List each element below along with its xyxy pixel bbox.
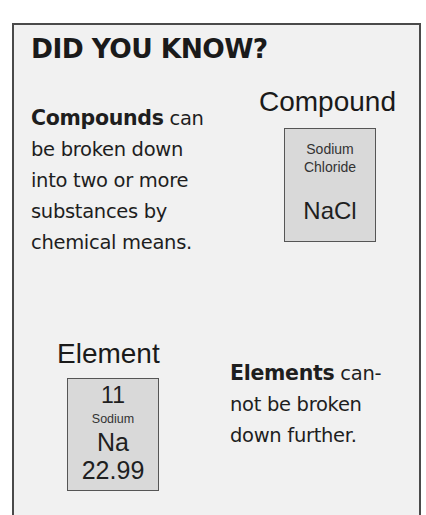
did-you-know-panel: DID YOU KNOW? Compounds can be broken do… — [12, 23, 421, 515]
compound-formula: NaCl — [285, 197, 375, 225]
atomic-mass: 22.99 — [68, 455, 158, 485]
atomic-number: 11 — [68, 382, 158, 408]
element-symbol: Na — [68, 427, 158, 457]
compound-name: Sodium Chloride — [285, 140, 375, 176]
compound-term: Compounds — [31, 106, 164, 130]
element-term: Elements — [230, 361, 334, 385]
element-name: Sodium — [68, 411, 158, 427]
compound-card: Sodium Chloride NaCl — [284, 128, 376, 242]
element-label: Element — [57, 338, 160, 370]
compound-description: Compounds can be broken down into two or… — [31, 103, 271, 258]
compound-label: Compound — [259, 86, 396, 118]
element-card: 11 Sodium Na 22.99 — [67, 378, 159, 491]
panel-title: DID YOU KNOW? — [31, 34, 268, 64]
element-description: Elements can- not be broken down further… — [230, 358, 420, 451]
